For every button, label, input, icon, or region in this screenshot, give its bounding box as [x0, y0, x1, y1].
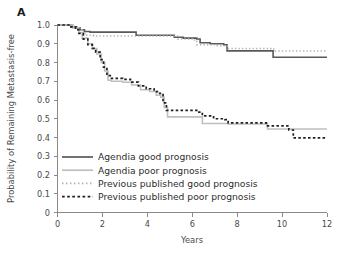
- x-tick-label: 2: [100, 219, 105, 229]
- y-tick-label: 0: [45, 208, 50, 218]
- y-axis-title: Probability of Remaining Metastasis-free: [6, 34, 16, 203]
- y-tick-label: 0.9: [37, 39, 50, 49]
- y-tick-label: 0.3: [37, 151, 50, 161]
- y-axis-ticks: 00.10.20.30.40.50.60.70.80.91.0: [37, 20, 58, 218]
- y-tick-label: 0.2: [37, 170, 50, 180]
- x-tick-label: 4: [145, 219, 150, 229]
- series-line-1: [58, 25, 328, 129]
- kaplan-meier-chart: 00.10.20.30.40.50.60.70.80.91.0 02468101…: [0, 0, 342, 256]
- y-tick-label: 1.0: [37, 20, 50, 30]
- y-tick-label: 0.8: [37, 58, 50, 68]
- series-line-3: [58, 25, 328, 138]
- y-tick-label: 0.5: [37, 114, 50, 124]
- legend-label-3: Previous published poor prognosis: [98, 191, 256, 202]
- y-tick-label: 0.6: [37, 95, 50, 105]
- legend-label-2: Previous published good prognosis: [98, 178, 258, 189]
- x-tick-label: 8: [235, 219, 240, 229]
- x-tick-label: 0: [55, 219, 60, 229]
- figure-panel: A 00.10.20.30.40.50.60.70.80.91.0 024681…: [0, 0, 342, 256]
- chart-series-group: [58, 25, 328, 138]
- y-tick-label: 0.7: [37, 76, 50, 86]
- x-axis-ticks: 024681012: [55, 213, 332, 230]
- series-line-0: [58, 25, 328, 57]
- legend-label-1: Agendia poor prognosis: [98, 165, 207, 176]
- x-axis-title: Years: [180, 235, 203, 245]
- x-tick-label: 10: [277, 219, 287, 229]
- y-tick-label: 0.1: [37, 189, 50, 199]
- y-tick-label: 0.4: [37, 133, 50, 143]
- legend-label-0: Agendia good prognosis: [98, 151, 209, 162]
- x-tick-label: 6: [190, 219, 195, 229]
- x-tick-label: 12: [322, 219, 332, 229]
- chart-legend: Agendia good prognosisAgendia poor progn…: [62, 151, 258, 202]
